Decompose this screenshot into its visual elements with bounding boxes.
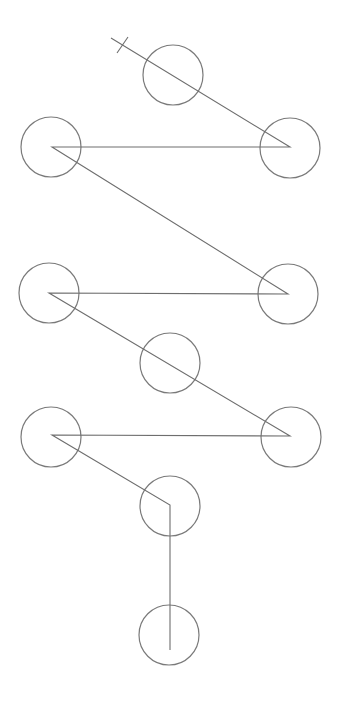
diagram-canvas <box>0 0 345 709</box>
node-circle-1 <box>143 45 203 105</box>
node-circle-6 <box>140 333 200 393</box>
connecting-path <box>49 38 290 650</box>
node-circle-8 <box>261 407 321 467</box>
node-circle-10 <box>139 605 199 665</box>
start-tick-mark <box>117 37 128 53</box>
node-circle-7 <box>21 407 81 467</box>
node-circle-3 <box>260 118 320 178</box>
